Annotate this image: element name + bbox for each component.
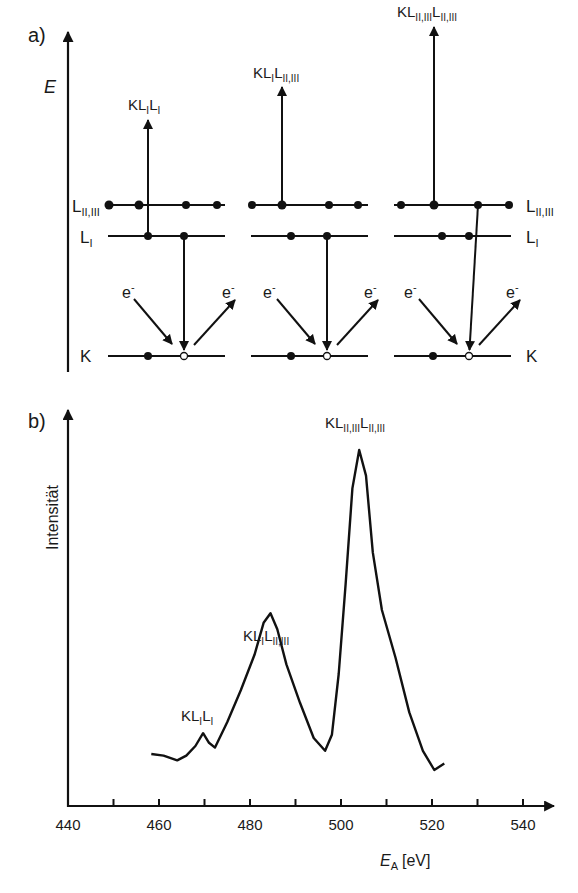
level-label-L1-left: LI <box>80 228 93 249</box>
x-tick-label: 520 <box>419 816 444 833</box>
transition-KL1L1: e- e- KLILI <box>105 96 236 360</box>
transition-label-KL1L23: KLILII,III <box>253 64 299 84</box>
panel-a-label: a) <box>28 24 46 46</box>
electron-in-label: e- <box>404 281 417 301</box>
x-axis-label: EA[eV] <box>380 852 430 872</box>
x-tick-label: 500 <box>328 816 353 833</box>
peak-label-KL1L23: KLILII,III <box>243 627 289 647</box>
electron-out-label: e- <box>364 281 377 301</box>
level-label-K-left: K <box>80 347 92 366</box>
y-axis-label: Intensität <box>44 485 61 550</box>
auger-figure: a) E LII,III LI K LII,III LI K e- e- KLI… <box>0 0 578 893</box>
x-tick-label: 440 <box>55 816 80 833</box>
electron-out-label: e- <box>506 281 519 301</box>
peak-label-KL23L23: KLII,IIILII,III <box>325 414 385 434</box>
transition-KL1L23: e- e- KLILII,III <box>248 64 378 360</box>
energy-axis-label: E <box>44 77 57 97</box>
panel-b-auger-spectrum: b) Intensität 440460480500520540 EA[eV] … <box>28 410 554 872</box>
x-tick-label: 540 <box>510 816 535 833</box>
transition-label-KL1L1: KLILI <box>128 96 160 116</box>
peak-label-KL1L1: KLILI <box>181 707 213 727</box>
electron-in-label: e- <box>263 281 276 301</box>
level-label-L23-left: LII,III <box>72 197 100 218</box>
transition-KL23L23: e- e- KLII,IIILII,III <box>394 3 520 360</box>
level-label-L1-right: LI <box>526 228 539 249</box>
electron-in-label: e- <box>122 281 135 301</box>
panel-b-label: b) <box>28 410 46 432</box>
level-label-K-right: K <box>526 347 538 366</box>
x-axis-tick-labels: 440460480500520540 <box>55 816 535 833</box>
x-tick-label: 480 <box>237 816 262 833</box>
level-label-L23-right: LII,III <box>526 197 554 218</box>
electron-out-label: e- <box>222 281 235 301</box>
x-tick-label: 460 <box>146 816 171 833</box>
transition-label-KL23L23: KLII,IIILII,III <box>397 3 457 23</box>
panel-a-energy-diagram: a) E LII,III LI K LII,III LI K e- e- KLI… <box>28 3 554 372</box>
